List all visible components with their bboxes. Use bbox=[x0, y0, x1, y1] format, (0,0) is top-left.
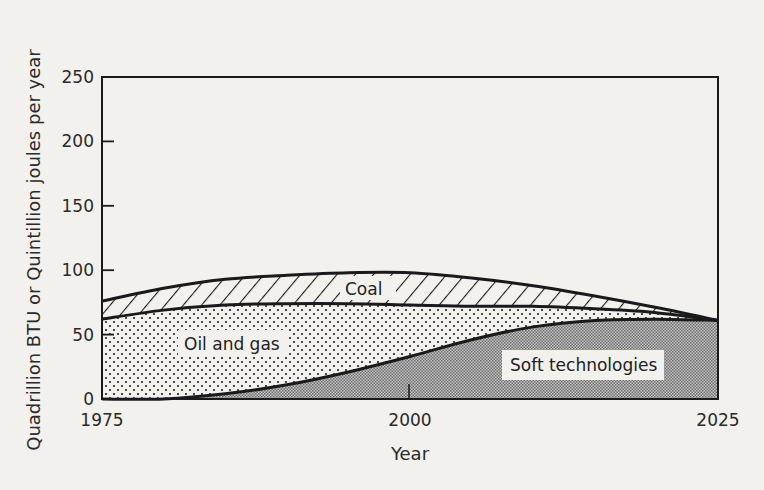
stacked-area-chart: 050100150200250 197520002025 Coal Oil an… bbox=[0, 0, 764, 490]
y-tick-label: 150 bbox=[62, 196, 94, 216]
oil-gas-label: Oil and gas bbox=[184, 334, 280, 354]
x-tick-label: 2000 bbox=[388, 410, 431, 430]
x-tick-label: 1975 bbox=[80, 410, 123, 430]
y-tick-label: 100 bbox=[62, 260, 94, 280]
y-tick-label: 0 bbox=[83, 389, 94, 409]
y-tick-label: 250 bbox=[62, 67, 94, 87]
y-tick-label: 50 bbox=[72, 325, 94, 345]
y-tick-label: 200 bbox=[62, 131, 94, 151]
chart-canvas: 050100150200250 197520002025 Coal Oil an… bbox=[0, 0, 764, 490]
soft-technologies-label: Soft technologies bbox=[510, 355, 657, 375]
y-axis-title: Quadrillion BTU or Quintillion joules pe… bbox=[23, 49, 44, 451]
x-axis-title: Year bbox=[390, 443, 430, 464]
coal-label: Coal bbox=[345, 279, 382, 299]
x-axis: 197520002025 bbox=[80, 410, 739, 430]
x-tick-label: 2025 bbox=[696, 410, 739, 430]
